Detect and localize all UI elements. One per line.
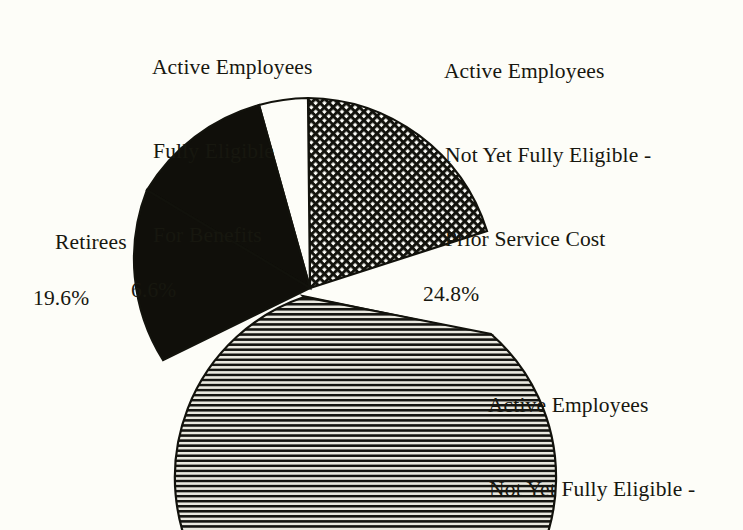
pie-label-fully-eligible-line3: For Benefits bbox=[153, 223, 262, 247]
pie-label-fully-eligible-line2: Fully Eligible bbox=[153, 139, 274, 163]
pie-label-prior-service-cost: Active Employees Not Yet Fully Eligible … bbox=[423, 30, 651, 365]
pie-label-prior-service-cost-percent: 24.8% bbox=[423, 281, 651, 309]
pie-label-present-value-future-service-cost: Active Employees Not Yet Fully Eligible … bbox=[467, 364, 695, 530]
pie-label-prior-service-cost-line3: Prior Service Cost bbox=[445, 227, 605, 251]
pie-label-present-value-line2: Not Yet Fully Eligible - bbox=[489, 477, 695, 501]
pie-label-retirees-percent: 19.6% bbox=[33, 285, 127, 313]
pie-label-retirees: Retirees 19.6% bbox=[33, 201, 127, 369]
pie-label-prior-service-cost-line1: Active Employees bbox=[444, 59, 605, 83]
pie-label-fully-eligible-line1: Active Employees bbox=[152, 55, 313, 79]
pie-label-retirees-line1: Retirees bbox=[55, 230, 127, 254]
pie-label-prior-service-cost-line2: Not Yet Fully Eligible - bbox=[445, 143, 651, 167]
pie-label-fully-eligible: Active Employees Fully Eligible For Bene… bbox=[131, 26, 313, 361]
pie-label-present-value-line1: Active Employees bbox=[488, 393, 649, 417]
pie-chart-figure: Active Employees Fully Eligible For Bene… bbox=[0, 0, 743, 530]
pie-label-fully-eligible-percent: 6.6% bbox=[131, 277, 313, 305]
